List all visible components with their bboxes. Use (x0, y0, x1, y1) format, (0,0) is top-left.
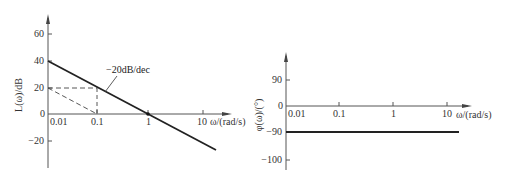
y-tick-90: 90 (272, 74, 282, 85)
y-axis-label: L(ω)/dB (13, 78, 25, 112)
x-tick-10: 10 (442, 108, 452, 119)
y-axis-arrow-icon (46, 14, 50, 24)
x-tick-1: 1 (391, 108, 396, 119)
y-tick-0: 0 (278, 100, 283, 111)
y-axis-label: φ(ω)/(°) (253, 99, 265, 131)
y-tick-minus-100: −100 (261, 154, 282, 165)
guide-diagonal (48, 88, 97, 114)
y-tick-40: 40 (34, 55, 44, 66)
y-tick-minus-90: −90 (266, 126, 282, 137)
x-tick-0.1: 0.1 (333, 108, 346, 119)
x-tick-0.01: 0.01 (288, 108, 306, 119)
x-axis-label: ω/(rad/s) (210, 116, 245, 128)
x-axis-label: ω/(rad/s) (456, 109, 491, 121)
x-tick-10: 10 (197, 116, 207, 127)
crossover-marker (146, 112, 150, 116)
bode-figure: 60 40 20 0 −20 0.01 0.1 1 10 ω/(rad/s) L… (0, 0, 509, 180)
x-tick-1: 1 (146, 116, 151, 127)
y-tick-0: 0 (40, 108, 45, 119)
annotation-leader (105, 76, 117, 92)
slope-annotation: −20dB/dec (106, 64, 151, 75)
x-tick-0.1: 0.1 (91, 116, 104, 127)
y-axis-arrow-icon (284, 52, 288, 62)
y-tick-minus-20: −20 (28, 135, 44, 146)
phase-plot: 90 0 −90 −100 0.01 0.1 1 10 ω/(rad/s) φ(… (253, 52, 491, 170)
y-tick-60: 60 (34, 28, 44, 39)
x-tick-0.01: 0.01 (50, 116, 68, 127)
x-axis-arrow-icon (462, 104, 472, 108)
y-tick-20: 20 (34, 82, 44, 93)
magnitude-plot: 60 40 20 0 −20 0.01 0.1 1 10 ω/(rad/s) L… (13, 14, 245, 168)
